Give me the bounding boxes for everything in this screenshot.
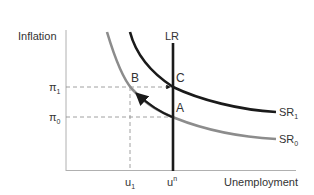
sr1-label: SR1 [279, 106, 298, 120]
point-b-label: B [131, 71, 139, 85]
pi1-label: π1 [49, 81, 61, 95]
un-label: un [167, 175, 177, 188]
point-c-label: C [176, 71, 185, 85]
sr0-curve [107, 32, 276, 139]
arrow-a-to-b [137, 94, 172, 117]
phillips-curve-diagram: Inflation Unemployment LR SR1 SR0 π1 π0 … [0, 0, 314, 195]
sr0-label: SR0 [279, 133, 298, 147]
pi0-label: π0 [49, 111, 61, 125]
y-axis-label: Inflation [18, 30, 57, 42]
x-axis-label: Unemployment [224, 176, 298, 188]
sr1-curve [130, 32, 276, 112]
lr-label: LR [165, 30, 179, 42]
u1-label: u1 [125, 176, 135, 190]
point-a-label: A [176, 101, 184, 115]
